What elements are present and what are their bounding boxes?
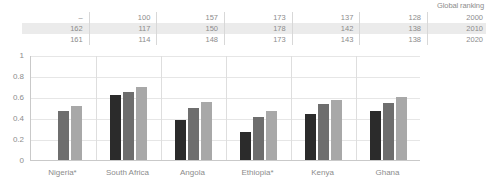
bar-angola-2000 [175, 120, 186, 160]
bar-group-ghana [356, 56, 421, 160]
rank-cell-nigeria-2000: – [22, 12, 90, 23]
rank-cell-nigeria-2020: 161 [22, 34, 90, 45]
bar-kenya-2010 [318, 104, 329, 160]
y-axis-tick-label: 0.2 [0, 135, 24, 144]
rank-cell-angola-2010: 150 [157, 23, 225, 34]
bar-ghana-2020 [396, 97, 407, 160]
rank-cell-ghana-2010: 138 [360, 23, 428, 34]
group-separator [356, 56, 357, 160]
rank-cell-angola-2000: 157 [157, 12, 225, 23]
rank-cell-south-africa-2020: 114 [90, 34, 158, 45]
rank-cell-ethiopia-2010: 178 [225, 23, 293, 34]
global-ranking-table: Global ranking – 100 157 173 137 128 200… [0, 0, 486, 50]
y-axis-tick-label: 0.4 [0, 114, 24, 123]
x-axis-label-ghana: Ghana [355, 168, 420, 177]
rank-cell-ghana-2020: 138 [360, 34, 428, 45]
rank-cell-angola-2020: 148 [157, 34, 225, 45]
table-row: 161 114 148 173 143 138 2020 [22, 34, 486, 45]
rank-row-year-2020: 2020 [428, 34, 486, 45]
bar-angola-2020 [201, 102, 212, 160]
x-axis-label-ethiopia: Ethiopia* [225, 168, 290, 177]
bar-kenya-2020 [331, 100, 342, 160]
bar-ghana-2010 [383, 103, 394, 160]
x-axis-label-nigeria: Nigeria* [30, 168, 95, 177]
bar-ghana-2000 [370, 111, 381, 160]
bar-nigeria-2020 [71, 106, 82, 160]
bar-kenya-2000 [305, 114, 316, 160]
rank-cell-ethiopia-2000: 173 [225, 12, 293, 23]
rank-cell-nigeria-2010: 162 [22, 23, 90, 34]
bar-group-nigeria [31, 56, 96, 160]
rank-cell-ghana-2000: 128 [360, 12, 428, 23]
table-row: 162 117 150 178 142 138 2010 [22, 23, 486, 34]
rank-cell-ethiopia-2020: 173 [225, 34, 293, 45]
y-axis-tick-label: 0.6 [0, 93, 24, 102]
plot-area [30, 56, 420, 161]
bar-angola-2010 [188, 108, 199, 161]
bar-group-angola [161, 56, 226, 160]
bar-group-southafrica [96, 56, 161, 160]
y-axis-tick-label: 0.8 [0, 72, 24, 81]
y-axis-tick-label: 1 [0, 51, 24, 60]
bar-chart: 00.20.40.60.81 200020102020 Nigeria*Sout… [0, 50, 486, 187]
group-separator [226, 56, 227, 160]
x-axis-label-kenya: Kenya [290, 168, 355, 177]
bar-ethiopia-2010 [253, 117, 264, 160]
bar-group-kenya [291, 56, 356, 160]
rank-row-year-2010: 2010 [428, 23, 486, 34]
bar-southafrica-2020 [136, 87, 147, 161]
x-axis-label-southafrica: South Africa [95, 168, 160, 177]
rank-cell-kenya-2020: 143 [293, 34, 361, 45]
rank-cell-kenya-2000: 137 [293, 12, 361, 23]
group-separator [291, 56, 292, 160]
rank-cell-south-africa-2000: 100 [90, 12, 158, 23]
y-axis-tick-label: 0 [0, 156, 24, 165]
bar-ethiopia-2000 [240, 132, 251, 160]
x-axis-label-angola: Angola [160, 168, 225, 177]
rank-cell-south-africa-2010: 117 [90, 23, 158, 34]
bar-nigeria-2010 [58, 111, 69, 160]
bar-ethiopia-2020 [266, 111, 277, 160]
group-separator [161, 56, 162, 160]
rank-cell-kenya-2010: 142 [293, 23, 361, 34]
group-separator [96, 56, 97, 160]
table-row: – 100 157 173 137 128 2000 [22, 12, 486, 23]
bar-group-ethiopia [226, 56, 291, 160]
global-ranking-header: Global ranking [428, 1, 484, 10]
bar-southafrica-2010 [123, 92, 134, 160]
rank-row-year-2000: 2000 [428, 12, 486, 23]
bar-southafrica-2000 [110, 95, 121, 160]
